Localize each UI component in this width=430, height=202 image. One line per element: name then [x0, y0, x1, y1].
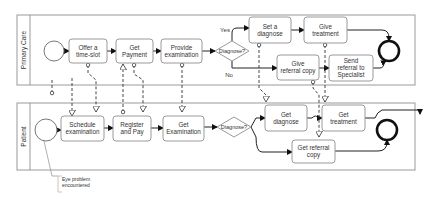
gateway-label: Diagnose? [221, 124, 247, 130]
task-label-line: Offer a [78, 44, 98, 51]
task-label-line: time-slot [76, 51, 100, 58]
message-flow [134, 65, 143, 112]
tasks-layer: Offer atime-slotGetPaymentProvideexamina… [61, 17, 373, 163]
task-provide-examination[interactable]: Provideexamination [161, 39, 202, 63]
task-label-line: examination [165, 51, 199, 58]
task-label-line: diagnose [273, 118, 299, 126]
sequence-flow [373, 61, 386, 68]
sequence-flow [251, 118, 265, 127]
task-label-line: Set a [263, 23, 278, 30]
gateway-diagnose-bottom[interactable]: Diagnose? [217, 117, 251, 137]
task-label-line: diagnose [257, 30, 283, 38]
task-label-line: Get [178, 121, 188, 128]
gateways-layer: Diagnose?Diagnose? [215, 41, 251, 137]
task-label-line: Provide [171, 44, 193, 51]
task-label-line: Give [319, 23, 332, 30]
task-label-line: treatment [330, 118, 357, 125]
task-label-line: Get [338, 111, 348, 118]
sequence-flow [335, 140, 387, 151]
sequence-flow [307, 116, 322, 118]
task-label-line: Send [344, 57, 359, 64]
pools-layer: Primary CarePatient [17, 15, 415, 170]
message-flow [259, 45, 266, 102]
task-label-line: Schedule [69, 121, 96, 128]
annotation-association-line [44, 141, 58, 176]
task-label-line: copy [307, 151, 321, 159]
task-label-line: Specialist [338, 71, 365, 79]
start-event-start-primary-care[interactable] [44, 41, 64, 61]
pool-label: Patient [20, 126, 27, 146]
start-event-start-patient[interactable] [35, 119, 57, 141]
task-label-line: Payment [122, 51, 147, 59]
task-get-payment[interactable]: GetPayment [116, 39, 153, 63]
sequence-flow [365, 110, 420, 118]
task-send-referral-to-specialist[interactable]: Sendreferral toSpecialist [329, 55, 373, 81]
bpmn-diagram: Primary CarePatient Diagnose?Diagnose? O… [0, 0, 430, 202]
message-flow [88, 65, 96, 112]
task-give-treatment[interactable]: Givetreatment [304, 17, 347, 43]
annotation-line: encountered [62, 182, 90, 188]
task-label-line: referral to [338, 64, 365, 71]
message-flow [313, 82, 319, 137]
label-yes: Yes [220, 27, 230, 33]
task-give-referral-copy[interactable]: Givereferral copy [277, 55, 319, 80]
task-label-line: Give [292, 60, 305, 67]
text-annotation: Eye problemencountered [44, 141, 90, 192]
sequence-flow [232, 61, 277, 68]
gateway-diagnose-top[interactable]: Diagnose? [215, 41, 249, 61]
message-flow [52, 78, 72, 116]
task-get-referral-copy[interactable]: Get referralcopy [292, 140, 335, 163]
task-get-examination[interactable]: GetExamination [163, 116, 204, 141]
task-schedule-examination[interactable]: Scheduleexamination [61, 116, 104, 141]
pool-label: Primary Care [20, 30, 28, 69]
task-set-a-diagnose[interactable]: Set adiagnose [249, 17, 291, 43]
task-get-treatment[interactable]: Gettreatment [322, 105, 365, 131]
task-label-line: examination [66, 128, 100, 135]
task-register-and-pay[interactable]: Registerand Pay [113, 116, 151, 141]
task-label-line: referral copy [281, 67, 317, 75]
end-event-end-patient[interactable] [377, 120, 397, 140]
end-event-end-primary-care[interactable] [379, 41, 399, 61]
label-no: No [225, 72, 233, 78]
task-label-line: Examination [166, 128, 201, 135]
annotation-text: Eye problemencountered [62, 176, 90, 188]
task-offer-time-slot[interactable]: Offer atime-slot [69, 39, 107, 63]
task-label-line: Get [281, 111, 291, 118]
sequence-flow [232, 28, 249, 41]
task-get-diagnose[interactable]: Getdiagnose [265, 105, 307, 131]
sequence-flow [347, 30, 389, 41]
task-label-line: Get referral [298, 144, 330, 151]
task-label-line: and Pay [120, 128, 144, 136]
task-label-line: Get [129, 44, 139, 51]
task-label-line: treatment [312, 30, 339, 37]
gateway-label: Diagnose? [219, 48, 245, 54]
